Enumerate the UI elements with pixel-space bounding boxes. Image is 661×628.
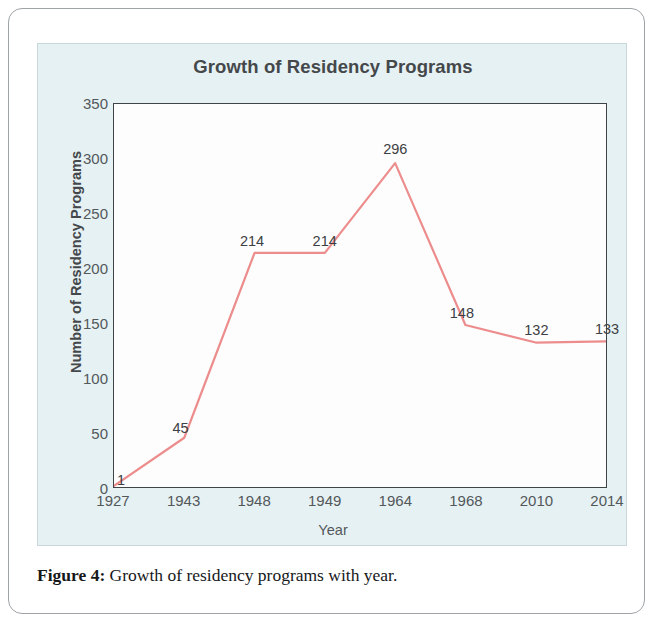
x-tick-label: 1949 (290, 492, 360, 509)
x-tick-label: 2010 (501, 492, 571, 509)
data-point-label: 214 (313, 233, 337, 249)
figure-caption-label: Figure 4: (37, 565, 105, 585)
chart-panel: Growth of Residency Programs Number of R… (37, 43, 627, 546)
data-point-label: 133 (595, 321, 619, 337)
y-tick-label: 300 (62, 150, 108, 167)
figure-caption: Figure 4: Growth of residency programs w… (37, 565, 637, 586)
x-tick-label: 1927 (78, 492, 148, 509)
y-tick-label: 250 (62, 205, 108, 222)
data-point-label: 148 (450, 305, 474, 321)
y-tick-label: 150 (62, 315, 108, 332)
x-tick-label: 1948 (219, 492, 289, 509)
data-point-label: 1 (117, 472, 125, 488)
y-tick-label: 350 (62, 95, 108, 112)
y-tick-label: 100 (62, 370, 108, 387)
data-point-label: 296 (383, 141, 407, 157)
x-axis-tick-labels: 19271943194819491964196820102014 (113, 492, 607, 514)
x-axis-title: Year (38, 522, 628, 538)
data-point-label: 45 (173, 420, 189, 436)
data-point-label: 214 (240, 233, 264, 249)
chart-title: Growth of Residency Programs (38, 56, 628, 78)
y-axis-tick-labels: 050100150200250300350 (58, 103, 108, 488)
scanned-page-frame: Growth of Residency Programs Number of R… (8, 8, 645, 614)
data-point-label: 132 (524, 322, 548, 338)
y-tick-label: 200 (62, 260, 108, 277)
y-tick-label: 50 (62, 425, 108, 442)
x-tick-label: 1943 (149, 492, 219, 509)
x-tick-label: 1968 (431, 492, 501, 509)
x-tick-label: 2014 (572, 492, 642, 509)
figure-caption-text: Growth of residency programs with year. (110, 565, 398, 585)
x-tick-label: 1964 (360, 492, 430, 509)
